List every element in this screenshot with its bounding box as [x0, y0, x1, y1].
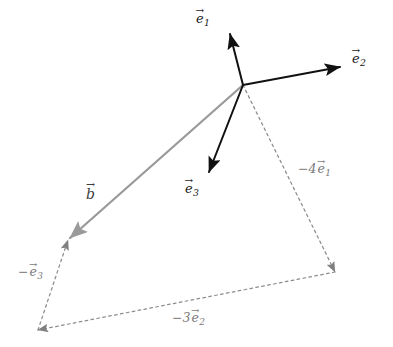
- vector-accent-e3: →: [185, 176, 193, 186]
- label-minus-3-e2: −3→e2: [172, 312, 205, 327]
- label-e2: →e2: [352, 52, 366, 67]
- label-e1: →e1: [196, 12, 210, 27]
- vector-canvas: [0, 0, 393, 347]
- vector-line-b: [70, 85, 243, 238]
- vector-accent-minus-4-e1: →: [317, 157, 325, 167]
- vector-line-e2: [243, 67, 340, 85]
- label-b: →b: [86, 187, 95, 201]
- label-minus-4-e1: −4→e1: [298, 163, 331, 178]
- vector-line-e3: [209, 85, 243, 172]
- subscript-e3: 3: [193, 187, 199, 198]
- coefficient-minus-e3: −: [18, 264, 28, 279]
- label-e3: →e3: [185, 182, 199, 197]
- coefficient-minus-3-e2: −3: [172, 310, 190, 325]
- subscript-e2: 2: [360, 57, 366, 68]
- vector-accent-e1: →: [196, 6, 204, 16]
- component-line-minus-e3: [38, 240, 68, 330]
- subscript-minus-4-e1: 1: [325, 168, 331, 178]
- label-minus-e3: −→e3: [18, 266, 43, 281]
- vector-accent-minus-3-e2: →: [191, 306, 199, 316]
- vector-accent-e2: →: [352, 46, 360, 56]
- component-line-minus-4-e1: [243, 85, 335, 272]
- vector-accent-b: →: [86, 180, 95, 191]
- subscript-e1: 1: [204, 17, 210, 28]
- vector-line-e1: [230, 34, 243, 85]
- vector-diagram-figure: →e1 →e2 →e3 →b −4→e1 −3→e2 −→e3: [0, 0, 393, 347]
- vector-accent-minus-e3: →: [29, 260, 37, 270]
- subscript-minus-3-e2: 2: [199, 317, 205, 327]
- subscript-minus-e3: 3: [37, 271, 43, 281]
- coefficient-minus-4-e1: −4: [298, 161, 316, 176]
